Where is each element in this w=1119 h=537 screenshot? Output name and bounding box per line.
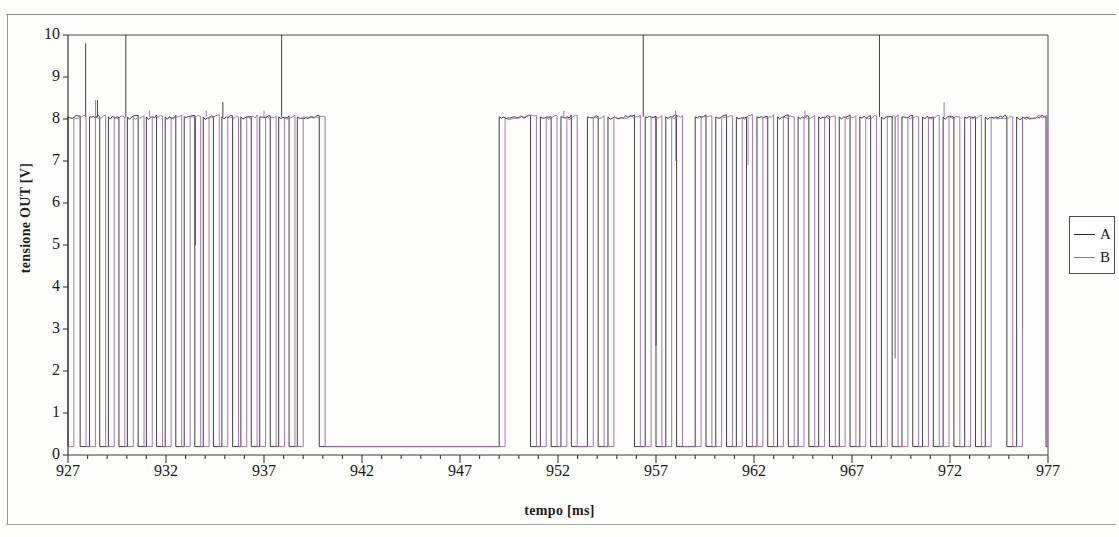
legend-label-a: A xyxy=(1100,227,1111,242)
x-tick-label: 952 xyxy=(528,462,588,480)
x-tick-label: 937 xyxy=(234,462,294,480)
x-tick-label: 932 xyxy=(136,462,196,480)
x-tick-label: 957 xyxy=(626,462,686,480)
x-tick-label: 977 xyxy=(1018,462,1078,480)
x-axis-title: tempo [ms] xyxy=(0,503,1119,519)
legend-label-b: B xyxy=(1100,250,1110,265)
x-tick-label: 947 xyxy=(430,462,490,480)
chart-legend: A B xyxy=(1069,216,1115,274)
chart-figure: 012345678910 927932937942947952957962967… xyxy=(0,0,1119,537)
x-tick-label: 967 xyxy=(822,462,882,480)
x-axis-tick-labels: 927932937942947952957962967972977 xyxy=(0,0,1119,537)
x-tick-label: 927 xyxy=(38,462,98,480)
x-tick-label: 962 xyxy=(724,462,784,480)
scanned-page: 012345678910 927932937942947952957962967… xyxy=(0,0,1119,537)
x-tick-label: 942 xyxy=(332,462,392,480)
x-tick-label: 972 xyxy=(920,462,980,480)
legend-item-a: A xyxy=(1070,223,1116,245)
legend-swatch-a xyxy=(1074,234,1095,235)
legend-item-b: B xyxy=(1070,246,1116,268)
y-axis-title: tensione OUT [V] xyxy=(18,118,34,318)
legend-swatch-b xyxy=(1074,257,1095,258)
